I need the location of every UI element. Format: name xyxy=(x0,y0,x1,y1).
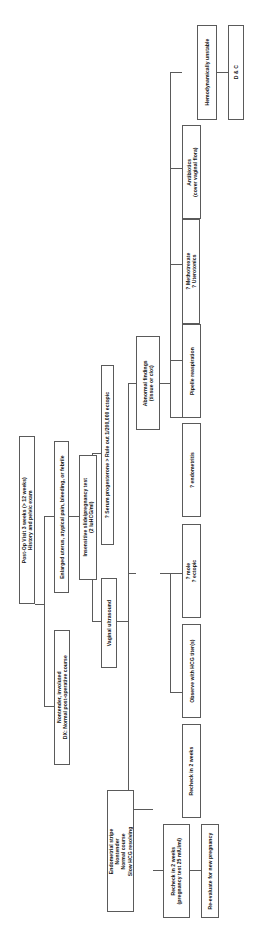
node-pipelle-reaspiration[interactable]: Pipelle reaspiration xyxy=(182,324,201,418)
connector xyxy=(69,516,79,517)
node-antibiotics-label: Antibiotics(cover vaginal flora) xyxy=(185,147,197,196)
node-post-op-visit[interactable]: Post-Op Visit 3 weeks (> 12 weeks)Histor… xyxy=(19,436,35,604)
node-mole-ectopic[interactable]: ? mole? ectopic xyxy=(182,524,201,618)
node-antibiotics[interactable]: Antibiotics(cover vaginal flora) xyxy=(182,125,201,219)
node-abnormal-findings[interactable]: Abnormal findings(tissue or clot) xyxy=(136,336,160,430)
node-endometritis[interactable]: ? endometritis xyxy=(182,423,201,517)
node-recheck-2-weeks-label: Recheck in 2 weeks xyxy=(188,747,194,796)
node-serum-progesterone[interactable]: ? Serum progesterone > Rule out 1/200,00… xyxy=(101,365,114,545)
node-dandc[interactable]: D & C xyxy=(228,25,244,120)
node-endometritis-label: ? endometritis xyxy=(188,452,194,488)
connector xyxy=(170,72,171,417)
connector xyxy=(170,360,182,361)
node-vaginal-ultrasound-label: Vaginal ultrasound xyxy=(106,600,112,647)
node-insensitive-slide[interactable]: Insensitive slide/pregnancy test(2 IuHCG… xyxy=(79,455,97,580)
connector xyxy=(44,516,54,517)
node-dandc-label: D & C xyxy=(233,65,239,79)
node-dx-normal[interactable]: Nontender, involutedDX: Normal post-oper… xyxy=(54,630,70,765)
node-re-evaluate[interactable]: Re-evaluate for new pregnancy xyxy=(201,824,219,918)
node-dx-normal-label: Nontender, involutedDX: Normal post-oper… xyxy=(56,656,68,740)
connector xyxy=(44,706,54,707)
flowchart-canvas: Post-Op Visit 3 weeks (> 12 weeks)Histor… xyxy=(0,0,256,951)
connector xyxy=(128,573,136,574)
node-recheck-2-weeks[interactable]: Recheck in 2 weeks xyxy=(182,724,201,818)
connector xyxy=(92,453,101,454)
connector xyxy=(170,264,182,265)
node-vaginal-ultrasound[interactable]: Vaginal ultrasound xyxy=(101,578,117,668)
connector xyxy=(44,516,45,706)
node-recheck-2-weeks-preg-label: Recheck in 2 weeks(pregnancy test 25 mIU… xyxy=(170,838,182,904)
connector xyxy=(190,870,201,871)
connector xyxy=(128,383,136,384)
node-endometrial-stripe[interactable]: Endometrial stripeNontenderNormal course… xyxy=(107,790,134,912)
connector xyxy=(217,72,228,73)
connector xyxy=(160,573,170,574)
node-abnormal-findings-label: Abnormal findings(tissue or clot) xyxy=(142,360,154,406)
connector xyxy=(170,692,182,693)
node-mole-ectopic-label: ? mole? ectopic xyxy=(185,560,197,583)
node-hemodynamically-unstable-label: Hemodynamically unstable xyxy=(204,39,210,106)
connector xyxy=(170,168,182,169)
connector xyxy=(117,621,128,622)
node-serum-progesterone-label: ? Serum progesterone > Rule out 1/200,00… xyxy=(104,392,110,518)
connector xyxy=(170,72,182,73)
node-enlarged-uterus[interactable]: Enlarged uterus, atypical pain, bleeding… xyxy=(54,441,69,593)
node-post-op-visit-label: Post-Op Visit 3 weeks (> 12 weeks)Histor… xyxy=(21,477,33,563)
connector xyxy=(153,870,163,871)
connector xyxy=(170,573,182,574)
node-hemodynamically-unstable[interactable]: Hemodynamically unstable xyxy=(197,25,217,120)
connector xyxy=(170,573,171,692)
node-observe-hcg[interactable]: Observe with HCG titer(s) xyxy=(182,624,201,718)
node-insensitive-slide-label: Insensitive slide/pregnancy test(2 IuHCG… xyxy=(82,478,94,557)
connector xyxy=(92,621,101,622)
connector xyxy=(128,383,129,809)
connector xyxy=(170,417,182,418)
node-methotrexate[interactable]: ? Methotrexate? Uterotonics xyxy=(182,219,200,324)
node-re-evaluate-label: Re-evaluate for new pregnancy xyxy=(207,833,213,910)
connector xyxy=(35,604,44,605)
connector xyxy=(160,383,170,384)
node-pipelle-reaspiration-label: Pipelle reaspiration xyxy=(188,347,194,395)
node-recheck-2-weeks-preg[interactable]: Recheck in 2 weeks(pregnancy test 25 mIU… xyxy=(163,824,190,918)
node-methotrexate-label: ? Methotrexate? Uterotonics xyxy=(185,253,197,290)
node-enlarged-uterus-label: Enlarged uterus, atypical pain, bleeding… xyxy=(58,455,64,579)
node-endometrial-stripe-label: Endometrial stripeNontenderNormal course… xyxy=(108,826,133,876)
node-observe-hcg-label: Observe with HCG titer(s) xyxy=(188,639,194,702)
